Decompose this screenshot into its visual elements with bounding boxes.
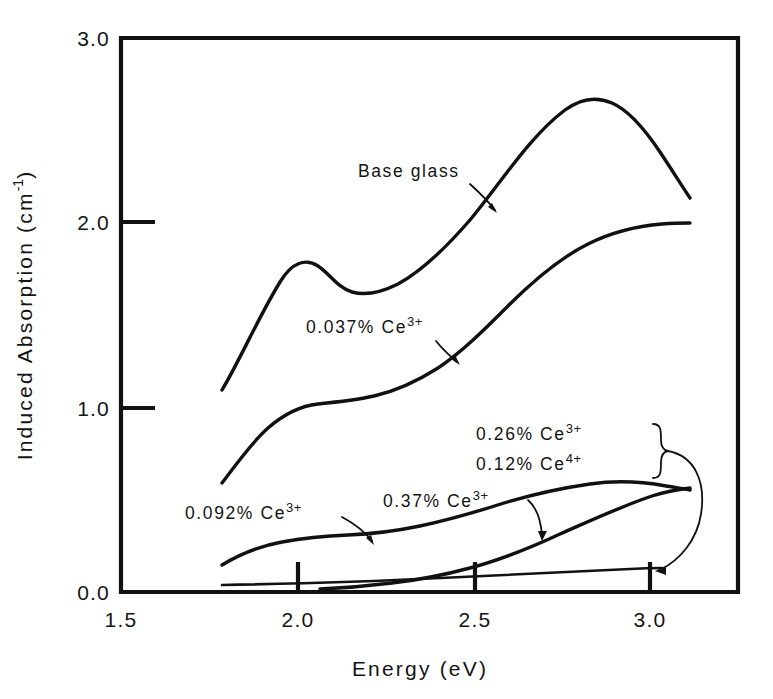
svg-text:Induced Absorption (cm-1): Induced Absorption (cm-1) [10, 170, 36, 461]
ytick-label-3-0: 3.0 [77, 27, 110, 50]
curve-base-glass [222, 99, 690, 390]
series-label-0-37: 0.37% Ce3+ [383, 488, 489, 511]
series-label-0-12-sup: 4+ [566, 451, 582, 466]
series-label-0-037-sup: 3+ [407, 314, 423, 329]
ytick-label-0-0: 0.0 [77, 581, 110, 604]
series-label-0-037: 0.037% Ce3+ [306, 314, 423, 337]
xtick-label-2-5: 2.5 [459, 608, 492, 631]
series-label-0-26-text: 0.26% Ce [476, 424, 566, 444]
leader-0-26-0-12 [660, 451, 702, 570]
series-label-0-092: 0.092% Ce3+ [185, 500, 302, 523]
series-label-0-12-text: 0.12% Ce [476, 454, 566, 474]
series-label-0-037-text: 0.037% Ce [306, 317, 407, 337]
ytick-label-1-0: 1.0 [77, 397, 110, 420]
series-label-0-26-sup: 3+ [566, 421, 582, 436]
absorption-spectra-plot: 3.0 2.0 1.0 0.0 1.5 2.0 2.5 3.0 Energy (… [0, 0, 773, 699]
series-label-0-37-text: 0.37% Ce [383, 491, 473, 511]
ytick-label-2-0: 2.0 [77, 211, 110, 234]
xtick-label-3-0: 3.0 [634, 608, 667, 631]
series-label-0-092-text: 0.092% Ce [185, 503, 286, 523]
leader-0-37 [528, 500, 542, 536]
y-axis-title: Induced Absorption (cm-1) [10, 170, 36, 461]
brace-0-26-0-12 [653, 424, 668, 478]
series-label-0-26: 0.26% Ce3+ [476, 421, 582, 444]
y-axis-title-close: ) [13, 170, 36, 179]
series-label-0-092-sup: 3+ [286, 500, 302, 515]
xtick-label-2-0: 2.0 [282, 608, 315, 631]
xtick-label-1-5: 1.5 [105, 608, 138, 631]
series-label-0-37-sup: 3+ [473, 488, 489, 503]
y-axis-title-exponent: -1 [10, 179, 26, 192]
y-axis-title-main: Induced Absorption (cm [13, 191, 36, 460]
series-label-base-glass: Base glass [358, 161, 460, 181]
series-label-0-12: 0.12% Ce4+ [476, 451, 582, 474]
x-axis-title: Energy (eV) [352, 657, 488, 680]
chart-figure: 3.0 2.0 1.0 0.0 1.5 2.0 2.5 3.0 Energy (… [0, 0, 773, 699]
curve-0-037 [222, 223, 690, 483]
